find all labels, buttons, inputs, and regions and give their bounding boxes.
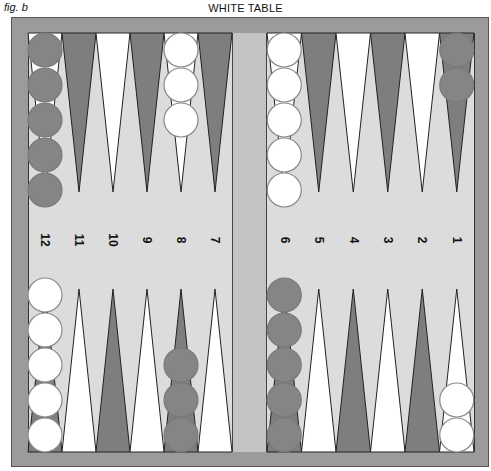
- white-checker[interactable]: [164, 68, 198, 102]
- top-point-4: [336, 33, 371, 192]
- point-number-5: 5: [312, 223, 326, 257]
- dark-checker[interactable]: [28, 33, 62, 67]
- dark-checker[interactable]: [440, 68, 474, 102]
- white-checker[interactable]: [267, 33, 301, 67]
- top-point-10: [96, 33, 130, 192]
- point-number-6: 6: [278, 223, 292, 257]
- dark-checker[interactable]: [267, 383, 301, 417]
- white-checker[interactable]: [440, 383, 474, 417]
- top-point-7: [198, 33, 232, 192]
- white-checker[interactable]: [28, 418, 62, 452]
- point-number-2: 2: [415, 223, 429, 257]
- white-checker[interactable]: [164, 33, 198, 67]
- dark-checker[interactable]: [28, 138, 62, 172]
- bottom-point-10: [371, 289, 406, 452]
- white-checker[interactable]: [267, 103, 301, 137]
- white-checker[interactable]: [267, 68, 301, 102]
- bottom-point-3: [96, 289, 130, 452]
- point-number-12: 12: [38, 223, 52, 257]
- point-number-1: 1: [450, 223, 464, 257]
- white-checker[interactable]: [28, 313, 62, 347]
- dark-checker[interactable]: [164, 348, 198, 382]
- bottom-point-11: [405, 289, 440, 452]
- white-checker[interactable]: [28, 348, 62, 382]
- white-checker[interactable]: [28, 383, 62, 417]
- bottom-point-8: [302, 289, 337, 452]
- dark-checker[interactable]: [28, 173, 62, 207]
- white-checker[interactable]: [28, 278, 62, 312]
- top-point-3: [371, 33, 406, 192]
- dark-checker[interactable]: [164, 383, 198, 417]
- dark-checker[interactable]: [267, 278, 301, 312]
- white-checker[interactable]: [267, 173, 301, 207]
- dark-checker[interactable]: [267, 418, 301, 452]
- bottom-point-4: [130, 289, 164, 452]
- bottom-point-2: [62, 289, 96, 452]
- dark-checker[interactable]: [267, 313, 301, 347]
- bottom-point-9: [336, 289, 371, 452]
- dark-checker[interactable]: [440, 33, 474, 67]
- point-number-3: 3: [381, 223, 395, 257]
- point-number-11: 11: [72, 223, 86, 257]
- white-checker[interactable]: [267, 138, 301, 172]
- dark-checker[interactable]: [28, 103, 62, 137]
- point-number-8: 8: [174, 223, 188, 257]
- white-checker[interactable]: [440, 418, 474, 452]
- point-number-4: 4: [347, 223, 361, 257]
- dark-checker[interactable]: [267, 348, 301, 382]
- top-point-9: [130, 33, 164, 192]
- dark-checker[interactable]: [28, 68, 62, 102]
- point-number-10: 10: [106, 223, 120, 257]
- top-point-11: [62, 33, 96, 192]
- dark-checker[interactable]: [164, 418, 198, 452]
- top-point-5: [302, 33, 337, 192]
- point-number-7: 7: [208, 223, 222, 257]
- point-number-9: 9: [140, 223, 154, 257]
- white-checker[interactable]: [164, 103, 198, 137]
- bottom-point-6: [198, 289, 232, 452]
- top-point-2: [405, 33, 440, 192]
